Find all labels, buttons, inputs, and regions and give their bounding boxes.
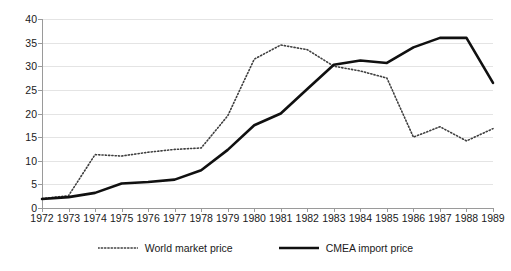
x-tick-mark [334, 208, 335, 212]
y-tick-mark [38, 184, 42, 185]
x-tick-label: 1984 [349, 213, 372, 224]
x-tick-label: 1983 [322, 213, 345, 224]
x-axis: 1972197319741975197619771978197919801981… [0, 0, 511, 271]
x-tick-mark [42, 208, 43, 212]
y-tick-mark [38, 137, 42, 138]
x-tick-label: 1988 [455, 213, 478, 224]
x-tick-mark [254, 208, 255, 212]
y-tick-mark [38, 161, 42, 162]
y-tick-mark [38, 208, 42, 209]
dotted-line-icon [98, 243, 138, 253]
line-chart: 0510152025303540 19721973197419751976197… [0, 0, 511, 271]
x-tick-mark [201, 208, 202, 212]
legend-label-world-market-price: World market price [145, 243, 233, 254]
x-tick-mark [387, 208, 388, 212]
x-tick-label: 1972 [30, 213, 53, 224]
x-tick-mark [228, 208, 229, 212]
legend-item-cmea-import-price: CMEA import price [279, 243, 414, 254]
x-tick-label: 1977 [163, 213, 186, 224]
x-tick-mark [466, 208, 467, 212]
x-tick-mark [95, 208, 96, 212]
x-tick-mark [360, 208, 361, 212]
y-tick-mark [38, 90, 42, 91]
x-tick-label: 1981 [269, 213, 292, 224]
y-tick-mark [38, 114, 42, 115]
x-tick-label: 1979 [216, 213, 239, 224]
x-tick-mark [175, 208, 176, 212]
x-tick-label: 1986 [402, 213, 425, 224]
x-tick-label: 1982 [296, 213, 319, 224]
y-tick-mark [38, 19, 42, 20]
y-tick-mark [38, 66, 42, 67]
y-tick-mark [38, 43, 42, 44]
x-tick-mark [440, 208, 441, 212]
x-tick-mark [148, 208, 149, 212]
x-tick-mark [493, 208, 494, 212]
x-tick-label: 1985 [375, 213, 398, 224]
chart-legend: World market price CMEA import price [0, 243, 511, 254]
legend-item-world-market-price: World market price [98, 243, 233, 254]
x-tick-mark [413, 208, 414, 212]
x-tick-mark [122, 208, 123, 212]
x-tick-label: 1975 [110, 213, 133, 224]
x-tick-label: 1987 [428, 213, 451, 224]
x-tick-label: 1989 [481, 213, 504, 224]
x-tick-label: 1978 [189, 213, 212, 224]
legend-label-cmea-import-price: CMEA import price [326, 243, 414, 254]
x-tick-mark [281, 208, 282, 212]
x-tick-label: 1974 [83, 213, 106, 224]
solid-line-icon [279, 243, 319, 253]
x-tick-mark [69, 208, 70, 212]
x-tick-label: 1976 [136, 213, 159, 224]
x-tick-label: 1980 [243, 213, 266, 224]
x-tick-label: 1973 [57, 213, 80, 224]
x-tick-mark [307, 208, 308, 212]
